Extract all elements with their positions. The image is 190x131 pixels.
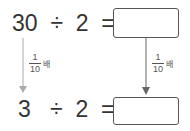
right-unit: 배 — [166, 58, 173, 69]
left-unit: 배 — [43, 58, 50, 69]
left-fraction: 1 10 — [29, 53, 41, 74]
right-fraction: 1 10 — [152, 53, 164, 74]
